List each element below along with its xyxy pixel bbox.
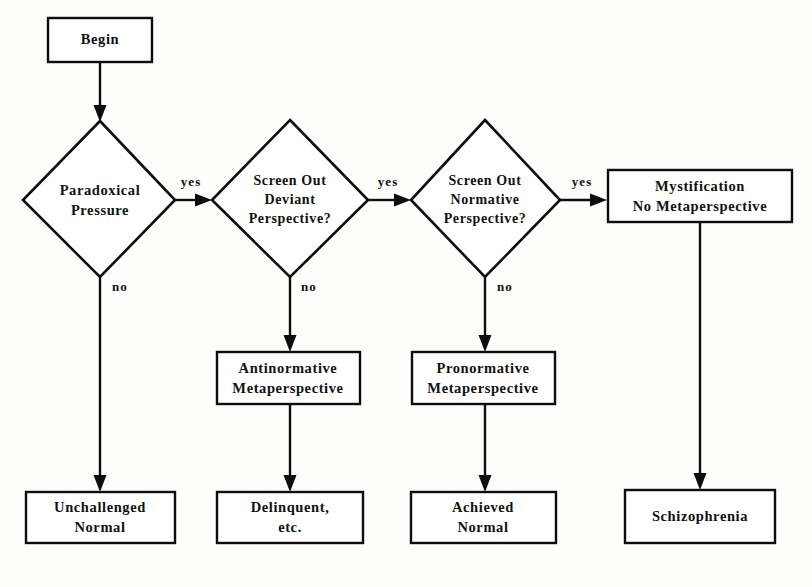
- edge-begin-to-paradoxical: [94, 62, 107, 122]
- node-delinquent[interactable]: Delinquent, etc.: [217, 492, 363, 543]
- node-paradoxical-pressure[interactable]: Paradoxical Pressure: [23, 121, 175, 277]
- node-achieved-normal-label-line2: Normal: [457, 519, 508, 535]
- edge-label-yes-1: yes: [181, 174, 202, 189]
- arrow-head-icon: [479, 475, 492, 492]
- node-mystification-label-line1: Mystification: [655, 178, 745, 194]
- node-pronormative-label-line1: Pronormative: [436, 360, 529, 376]
- node-screen-out-normative-label-line3: Perspective?: [444, 211, 527, 226]
- edge-paradoxical-no: [94, 277, 107, 492]
- node-screen-out-deviant-label-line3: Perspective?: [249, 211, 332, 226]
- node-antinormative-label-line2: Metaperspective: [232, 380, 343, 396]
- edge-label-yes-3: yes: [572, 174, 593, 189]
- node-achieved-normal[interactable]: Achieved Normal: [411, 492, 556, 543]
- arrow-head-icon: [284, 475, 297, 492]
- arrow-head-icon: [284, 335, 297, 352]
- arrow-head-icon: [590, 194, 607, 207]
- node-mystification-label-line2: No Metaperspective: [633, 198, 767, 214]
- node-unchallenged-normal[interactable]: Unchallenged Normal: [26, 492, 175, 543]
- edge-screen-deviant-no: [284, 277, 297, 352]
- node-screen-out-normative[interactable]: Screen Out Normative Perspective?: [411, 120, 560, 277]
- node-begin[interactable]: Begin: [48, 18, 152, 62]
- node-paradoxical-pressure-label-line1: Paradoxical: [60, 182, 141, 198]
- node-schizophrenia[interactable]: Schizophrenia: [625, 490, 775, 543]
- flowchart-canvas: Begin Paradoxical Pressure Screen Out De…: [0, 0, 812, 587]
- edge-label-no-2: no: [301, 279, 317, 294]
- node-pronormative[interactable]: Pronormative Metaperspective: [412, 352, 555, 404]
- node-antinormative[interactable]: Antinormative Metaperspective: [217, 352, 360, 404]
- edge-mystification-to-schizophrenia: [694, 222, 707, 490]
- node-delinquent-label-line1: Delinquent,: [251, 499, 330, 515]
- node-screen-out-deviant-label-line2: Deviant: [265, 192, 316, 207]
- edge-screen-normative-yes: [560, 194, 607, 207]
- edge-paradoxical-yes: [175, 194, 212, 207]
- node-screen-out-normative-label-line2: Normative: [450, 192, 519, 207]
- edge-pronormative-to-achieved: [479, 404, 492, 492]
- edge-screen-normative-no: [479, 277, 492, 352]
- edge-label-no-1: no: [112, 279, 128, 294]
- edge-label-yes-2: yes: [378, 174, 399, 189]
- node-delinquent-label-line2: etc.: [278, 519, 302, 535]
- arrow-head-icon: [394, 194, 411, 207]
- node-screen-out-deviant-label-line1: Screen Out: [253, 173, 326, 188]
- arrow-head-icon: [479, 335, 492, 352]
- node-schizophrenia-label: Schizophrenia: [652, 508, 748, 524]
- arrow-head-icon: [94, 475, 107, 492]
- node-unchallenged-normal-label-line1: Unchallenged: [54, 499, 146, 515]
- node-begin-label: Begin: [81, 31, 119, 47]
- node-screen-out-normative-label-line1: Screen Out: [448, 173, 521, 188]
- node-mystification[interactable]: Mystification No Metaperspective: [608, 170, 792, 222]
- edge-screen-deviant-yes: [368, 194, 411, 207]
- node-antinormative-label-line1: Antinormative: [239, 360, 338, 376]
- node-screen-out-deviant[interactable]: Screen Out Deviant Perspective?: [212, 120, 368, 277]
- edge-antinormative-to-delinquent: [284, 404, 297, 492]
- arrow-head-icon: [694, 473, 707, 490]
- edge-label-no-3: no: [497, 279, 513, 294]
- node-pronormative-label-line2: Metaperspective: [427, 380, 538, 396]
- node-unchallenged-normal-label-line2: Normal: [74, 519, 125, 535]
- node-paradoxical-pressure-label-line2: Pressure: [71, 202, 129, 218]
- node-achieved-normal-label-line1: Achieved: [452, 499, 514, 515]
- arrow-head-icon: [195, 194, 212, 207]
